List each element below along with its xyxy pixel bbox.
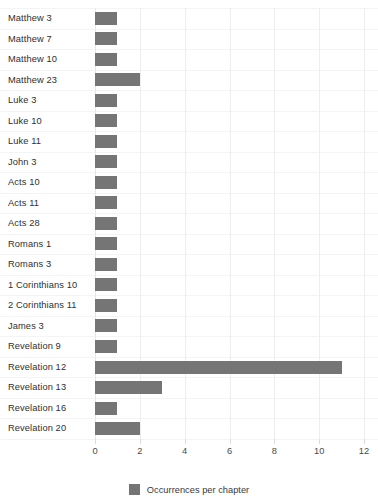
x-axis: 024681012 <box>95 439 364 469</box>
category-label: Acts 11 <box>0 193 88 214</box>
x-tick-mark <box>95 439 96 444</box>
x-tick-label: 2 <box>137 446 142 456</box>
bar-row <box>95 8 364 29</box>
bar[interactable] <box>95 155 117 168</box>
category-label: John 3 <box>0 152 88 173</box>
bar[interactable] <box>95 94 117 107</box>
bar[interactable] <box>95 278 117 291</box>
category-label: Luke 11 <box>0 131 88 152</box>
bar-row <box>95 29 364 50</box>
category-label: Acts 10 <box>0 172 88 193</box>
category-label: James 3 <box>0 316 88 337</box>
category-label: 1 Corinthians 10 <box>0 275 88 296</box>
x-tick-label: 10 <box>314 446 324 456</box>
bar[interactable] <box>95 196 117 209</box>
category-label: Matthew 23 <box>0 70 88 91</box>
x-tick-mark <box>274 439 275 444</box>
bar-row <box>95 398 364 419</box>
x-tick-label: 12 <box>359 446 369 456</box>
category-label: Revelation 13 <box>0 377 88 398</box>
bar-row <box>95 213 364 234</box>
bar[interactable] <box>95 319 117 332</box>
bar-row <box>95 254 364 275</box>
bar[interactable] <box>95 53 117 66</box>
bar-row <box>95 152 364 173</box>
category-label: 2 Corinthians 11 <box>0 295 88 316</box>
bar-row <box>95 49 364 70</box>
category-label: Romans 1 <box>0 234 88 255</box>
bar[interactable] <box>95 361 342 374</box>
bar[interactable] <box>95 402 117 415</box>
category-label: Romans 3 <box>0 254 88 275</box>
chart-legend: Occurrences per chapter <box>0 478 378 501</box>
bar-row <box>95 377 364 398</box>
legend-swatch-icon <box>129 484 140 495</box>
category-axis-labels: Matthew 3Matthew 7Matthew 10Matthew 23Lu… <box>0 8 88 439</box>
bar-row <box>95 193 364 214</box>
bar-row <box>95 275 364 296</box>
category-label: Revelation 9 <box>0 336 88 357</box>
bar[interactable] <box>95 258 117 271</box>
bar[interactable] <box>95 32 117 45</box>
x-tick-mark <box>230 439 231 444</box>
bar[interactable] <box>95 73 140 86</box>
category-label: Acts 28 <box>0 213 88 234</box>
bar-row <box>95 336 364 357</box>
x-tick-mark <box>185 439 186 444</box>
bar-row <box>95 111 364 132</box>
x-tick-mark <box>140 439 141 444</box>
x-tick-label: 0 <box>92 446 97 456</box>
bar[interactable] <box>95 135 117 148</box>
bar[interactable] <box>95 381 162 394</box>
bar-row <box>95 295 364 316</box>
x-tick-mark <box>319 439 320 444</box>
x-tick-label: 6 <box>227 446 232 456</box>
bar[interactable] <box>95 114 117 127</box>
bar-row <box>95 316 364 337</box>
x-tick-label: 4 <box>182 446 187 456</box>
bar[interactable] <box>95 340 117 353</box>
category-label: Revelation 16 <box>0 398 88 419</box>
bar-row <box>95 70 364 91</box>
bar[interactable] <box>95 12 117 25</box>
category-label: Matthew 3 <box>0 8 88 29</box>
bar-row <box>95 357 364 378</box>
bar-chart: Matthew 3Matthew 7Matthew 10Matthew 23Lu… <box>0 0 378 501</box>
category-label: Luke 3 <box>0 90 88 111</box>
x-tick-mark <box>364 439 365 444</box>
bar[interactable] <box>95 217 117 230</box>
bar[interactable] <box>95 299 117 312</box>
category-label: Matthew 7 <box>0 29 88 50</box>
plot-wrapper: Matthew 3Matthew 7Matthew 10Matthew 23Lu… <box>0 0 378 455</box>
x-tick-label: 8 <box>272 446 277 456</box>
category-label: Revelation 12 <box>0 357 88 378</box>
bar[interactable] <box>95 176 117 189</box>
bar[interactable] <box>95 237 117 250</box>
category-label: Luke 10 <box>0 111 88 132</box>
bar-row <box>95 172 364 193</box>
bar-row <box>95 90 364 111</box>
category-label: Revelation 20 <box>0 418 88 439</box>
bar-row <box>95 418 364 439</box>
gridline-vertical <box>364 8 365 439</box>
legend-label: Occurrences per chapter <box>147 485 249 495</box>
bar[interactable] <box>95 422 140 435</box>
plot-area <box>95 8 364 439</box>
bar-rows <box>95 8 364 439</box>
category-label: Matthew 10 <box>0 49 88 70</box>
bar-row <box>95 131 364 152</box>
bar-row <box>95 234 364 255</box>
